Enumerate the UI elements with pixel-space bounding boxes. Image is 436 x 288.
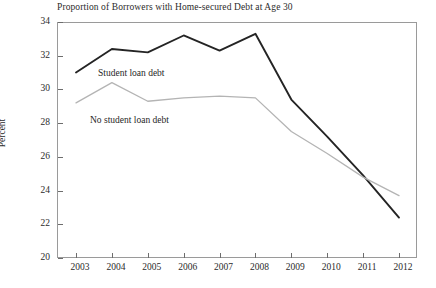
x-tick-mark-2011: [363, 253, 364, 258]
annotation-no-student-loan-debt: No student loan debt: [90, 115, 169, 125]
y-tick-mark-28: [58, 123, 63, 124]
x-tick-mark-2007: [220, 253, 221, 258]
x-tick-label-2011: 2011: [350, 262, 384, 272]
x-tick-mark-2008: [255, 253, 256, 258]
x-tick-label-2010: 2010: [314, 262, 348, 272]
x-tick-mark-2006: [184, 253, 185, 258]
y-tick-mark-26: [58, 157, 63, 158]
y-tick-label-28: 28: [26, 117, 50, 127]
x-tick-label-2007: 2007: [207, 262, 241, 272]
annotation-student-loan-debt: Student loan debt: [98, 68, 165, 78]
y-tick-mark-20: [58, 258, 63, 259]
y-tick-label-30: 30: [26, 83, 50, 93]
y-tick-label-20: 20: [26, 252, 50, 262]
y-tick-mark-30: [58, 89, 63, 90]
chart-figure: Proportion of Borrowers with Home-secure…: [0, 0, 436, 288]
x-tick-label-2012: 2012: [386, 262, 420, 272]
x-tick-label-2009: 2009: [278, 262, 312, 272]
y-tick-label-32: 32: [26, 50, 50, 60]
y-tick-mark-22: [58, 224, 63, 225]
x-tick-label-2006: 2006: [171, 262, 205, 272]
x-tick-mark-2003: [76, 253, 77, 258]
y-tick-label-26: 26: [26, 151, 50, 161]
line-no-student-loan-debt: [76, 83, 399, 196]
chart-title: Proportion of Borrowers with Home-secure…: [57, 2, 293, 12]
y-tick-mark-24: [58, 191, 63, 192]
y-axis-label: Percent: [0, 119, 7, 148]
x-tick-mark-2009: [291, 253, 292, 258]
y-tick-label-34: 34: [26, 16, 50, 26]
x-tick-label-2004: 2004: [99, 262, 133, 272]
x-tick-mark-2010: [327, 253, 328, 258]
x-tick-label-2005: 2005: [135, 262, 169, 272]
x-tick-mark-2012: [399, 253, 400, 258]
x-tick-mark-2005: [148, 253, 149, 258]
plot-series-svg: [57, 22, 417, 258]
line-student-loan-debt: [76, 34, 399, 218]
x-tick-label-2003: 2003: [63, 262, 97, 272]
y-tick-label-22: 22: [26, 218, 50, 228]
x-tick-mark-2004: [112, 253, 113, 258]
y-tick-mark-32: [58, 56, 63, 57]
y-tick-label-24: 24: [26, 185, 50, 195]
x-tick-label-2008: 2008: [242, 262, 276, 272]
y-tick-mark-34: [58, 22, 63, 23]
